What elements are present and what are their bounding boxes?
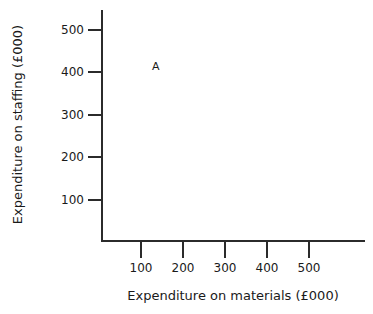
y-axis-tick <box>88 29 102 31</box>
x-axis-tick-label: 200 <box>163 262 203 274</box>
x-axis-tick-label: 100 <box>121 262 161 274</box>
x-axis-tick <box>224 242 226 258</box>
y-axis-tick-label: 400 <box>56 66 84 78</box>
y-axis-tick <box>88 156 102 158</box>
x-axis-tick-label: 400 <box>247 262 287 274</box>
data-point-label-a: A <box>152 61 160 72</box>
scatter-chart: 500 400 300 200 100 100 200 300 400 500 … <box>0 0 373 314</box>
y-axis-tick-label: 200 <box>56 151 84 163</box>
y-axis-tick <box>88 114 102 116</box>
y-axis-line <box>101 10 103 242</box>
x-axis-tick <box>182 242 184 258</box>
y-axis-tick-label: 100 <box>56 194 84 206</box>
y-axis-title: Expenditure on staffing (£000) <box>10 0 25 250</box>
x-axis-tick-label: 500 <box>289 262 329 274</box>
x-axis-tick <box>308 242 310 258</box>
y-axis-tick <box>88 199 102 201</box>
y-axis-tick-label: 300 <box>56 109 84 121</box>
x-axis-tick <box>140 242 142 258</box>
x-axis-tick-label: 300 <box>205 262 245 274</box>
x-axis-title: Expenditure on materials (£000) <box>101 288 365 303</box>
y-axis-tick-label: 500 <box>56 24 84 36</box>
y-axis-tick <box>88 71 102 73</box>
x-axis-tick <box>266 242 268 258</box>
